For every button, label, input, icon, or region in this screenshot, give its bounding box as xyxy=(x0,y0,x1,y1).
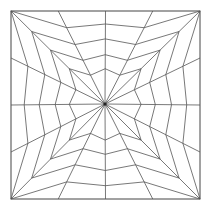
center-hub xyxy=(103,102,106,105)
spoke-line xyxy=(105,104,200,105)
spiderweb-diagram xyxy=(0,0,212,209)
spoke-line xyxy=(11,104,105,105)
spoke-line xyxy=(105,104,106,199)
web-svg xyxy=(0,0,212,209)
spoke-line xyxy=(105,11,106,104)
